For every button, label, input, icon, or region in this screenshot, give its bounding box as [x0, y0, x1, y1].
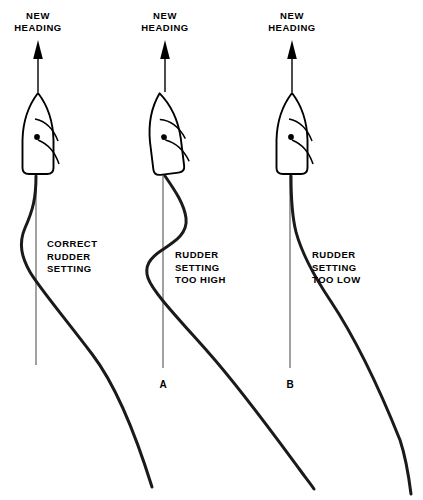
ship-2 — [144, 91, 190, 176]
heading-arrow-2 — [160, 40, 170, 92]
heading-arrow-3 — [287, 40, 297, 92]
track-too-high — [147, 176, 314, 489]
case-label-too-high: RUDDER SETTING TOO HIGH — [175, 249, 226, 287]
heading-arrow-1 — [33, 40, 43, 92]
heading-label-3: NEW HEADING — [247, 10, 337, 33]
case-id-a: A — [153, 379, 173, 390]
ship-1 — [23, 93, 60, 174]
track-too-low — [291, 176, 411, 494]
case-id-b: B — [280, 379, 300, 390]
heading-label-1: NEW HEADING — [0, 10, 83, 33]
rudder-setting-diagram: NEW HEADING NEW HEADING NEW HEADING CORR… — [0, 0, 423, 500]
case-label-too-low: RUDDER SETTING TOO LOW — [312, 249, 361, 287]
track-correct — [21, 176, 152, 487]
ship-3 — [277, 93, 314, 174]
case-label-correct: CORRECT RUDDER SETTING — [47, 238, 97, 276]
heading-label-2: NEW HEADING — [120, 10, 210, 33]
